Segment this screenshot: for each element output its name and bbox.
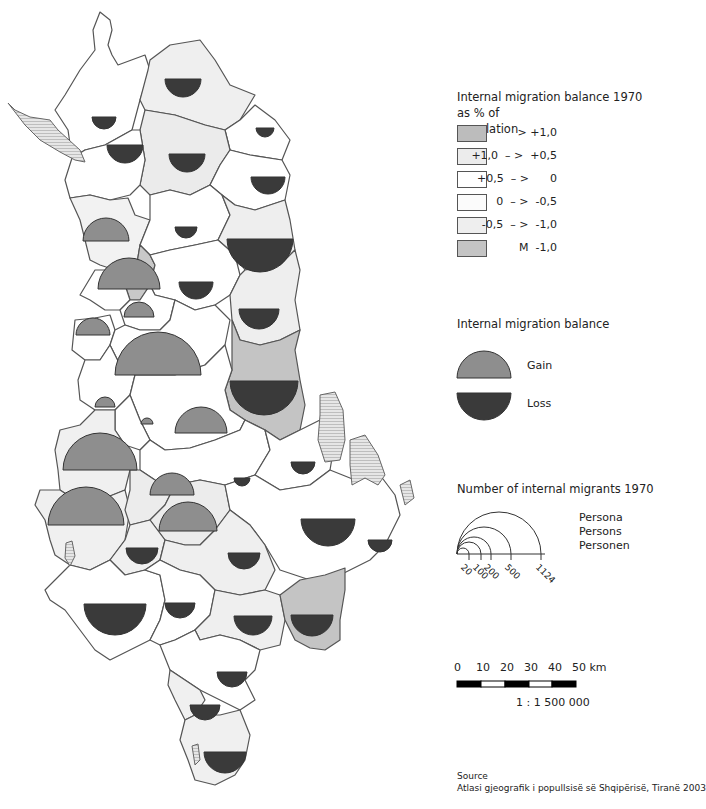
legend-swatch bbox=[457, 240, 487, 257]
legend-balance-symbols bbox=[457, 351, 511, 420]
legend-class-label: +1,0 – > +0,5 bbox=[471, 149, 557, 162]
scale-tick: 0 bbox=[454, 661, 461, 674]
unit-line: Personen bbox=[579, 539, 630, 553]
legend-size-units: Persona Persons Personen bbox=[579, 511, 630, 553]
legend-class-label: > +1,0 bbox=[518, 126, 557, 139]
legend-class-row: -0,5 – > -1,0 bbox=[457, 217, 647, 237]
legend-class-row: +1,0 – > +0,5 bbox=[457, 148, 647, 168]
scale-tick: 10 bbox=[476, 661, 490, 674]
legend-balance-title: Internal migration balance bbox=[457, 316, 609, 332]
legend-class-label: +0,5 – > 0 bbox=[477, 172, 557, 185]
scale-ratio: 1 : 1 500 000 bbox=[516, 696, 590, 709]
lake-ohrid bbox=[318, 392, 345, 462]
source-text: Atlasi gjeografik i popullsisë së Shqipë… bbox=[457, 783, 706, 793]
loss-legend-icon bbox=[457, 393, 511, 420]
legend-class-row: 0 – > -0,5 bbox=[457, 194, 647, 214]
legend-class-row: +0,5 – > 0 bbox=[457, 171, 647, 191]
scale-tick: 30 bbox=[524, 661, 538, 674]
legend-class-label: -0,5 – > -1,0 bbox=[482, 218, 557, 231]
district bbox=[180, 710, 250, 785]
legend-title-line1: Internal migration balance 1970 as % of bbox=[457, 89, 657, 121]
legend-class-row: M -1,0 bbox=[457, 240, 647, 260]
legend-swatch bbox=[457, 125, 487, 142]
legend-size-arcs bbox=[457, 512, 545, 560]
lake-prespa bbox=[350, 435, 385, 485]
unit-line: Persons bbox=[579, 525, 630, 539]
gain-label: Gain bbox=[527, 359, 552, 372]
source-label: Source bbox=[457, 771, 488, 781]
district-regions bbox=[35, 12, 400, 785]
scale-bar-graphic bbox=[457, 681, 576, 687]
scale-tick: 20 bbox=[500, 661, 514, 674]
district bbox=[280, 568, 345, 650]
legend-size-title: Number of internal migrants 1970 bbox=[457, 481, 654, 497]
legend-swatch bbox=[457, 194, 487, 211]
legend-class-label: 0 – > -0,5 bbox=[496, 195, 557, 208]
loss-label: Loss bbox=[527, 397, 551, 410]
scale-tick: 50 km bbox=[572, 661, 607, 674]
lake-small-prespa bbox=[400, 480, 414, 505]
gain-legend-icon bbox=[457, 351, 511, 378]
legend-class-row: > +1,0 bbox=[457, 125, 647, 145]
unit-line: Persona bbox=[579, 511, 630, 525]
legend-class-label: M -1,0 bbox=[519, 241, 557, 254]
scale-tick: 40 bbox=[548, 661, 562, 674]
